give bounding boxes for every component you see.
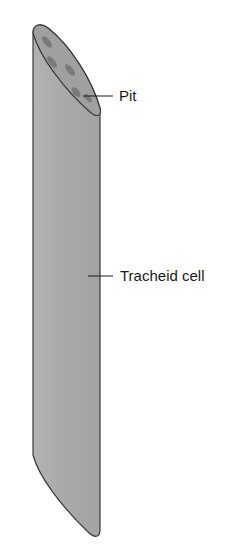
tracheid-diagram: Pit Tracheid cell [0,0,251,555]
pit-label: Pit [119,87,137,104]
tracheid-cell-label: Tracheid cell [120,267,204,284]
